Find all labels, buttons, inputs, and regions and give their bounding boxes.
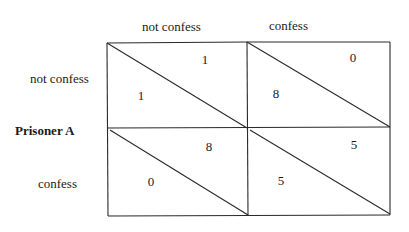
payoff-r1c1-upper-right: 5 bbox=[351, 138, 358, 151]
payoff-r0c1-lower-left: 8 bbox=[273, 87, 280, 100]
payoff-r1c0-upper-right: 8 bbox=[206, 140, 213, 153]
payoff-r0c1-upper-right: 0 bbox=[350, 51, 357, 64]
payoff-r1c0-lower-left: 0 bbox=[148, 175, 155, 188]
payoff-r0c0-upper-right: 1 bbox=[202, 53, 209, 66]
payoff-r0c0-lower-left: 1 bbox=[138, 89, 145, 102]
payoff-r1c1-lower-left: 5 bbox=[278, 174, 285, 187]
matrix-grid bbox=[0, 0, 409, 232]
